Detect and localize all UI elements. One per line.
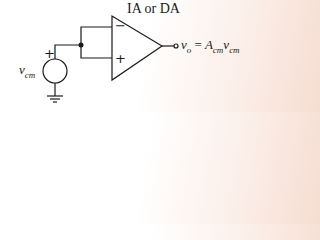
junction-dot — [79, 43, 84, 48]
inverting-input-wire — [81, 27, 112, 58]
eq-lhs-sub: o — [187, 45, 192, 55]
common-mode-test-circuit: IA or DA + − + vcm vo = Acmvcm — [0, 0, 262, 112]
source-wire — [55, 45, 81, 59]
eq-equals: = — [195, 37, 202, 52]
source-label-sub: cm — [25, 70, 36, 80]
inverting-input-sign: − — [115, 18, 126, 33]
eq-var-sub: cm — [229, 45, 240, 55]
eq-gain: A — [205, 37, 213, 52]
amplifier-label: IA or DA — [127, 1, 180, 17]
ground-icon — [47, 96, 63, 102]
source-label: vcm — [19, 62, 35, 80]
voltage-source-icon — [43, 59, 67, 83]
output-terminal-icon — [174, 44, 178, 48]
output-equation: vo = Acmvcm — [181, 37, 240, 55]
eq-gain-sub: cm — [213, 45, 224, 55]
source-plus-sign: + — [44, 46, 55, 61]
noninverting-input-sign: + — [115, 51, 126, 66]
